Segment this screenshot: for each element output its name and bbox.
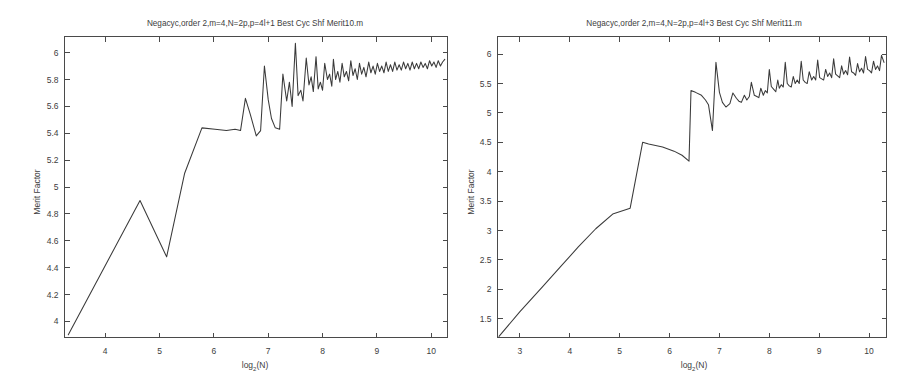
x-tick-label: 6: [212, 346, 217, 356]
chart-panel-right: Negacyc,order 2,m=4,N=2p,p=4l+3 Best Cyc…: [454, 0, 914, 386]
axis-ticks-left: 4567891044.24.44.64.855.25.45.65.86: [47, 37, 448, 356]
x-tick-label: 9: [817, 346, 822, 356]
x-tick-label: 10: [426, 346, 436, 356]
plot-title-right: Negacyc,order 2,m=4,N=2p,p=4l+3 Best Cyc…: [586, 19, 802, 28]
plot-svg-right: Negacyc,order 2,m=4,N=2p,p=4l+3 Best Cyc…: [454, 0, 914, 386]
x-tick-label: 7: [266, 346, 271, 356]
y-axis-label-left: Merit Factor: [32, 169, 42, 215]
y-tick-label: 4: [487, 167, 492, 177]
y-tick-label: 4.4: [47, 263, 59, 273]
y-tick-label: 3: [487, 226, 492, 236]
x-tick-label: 5: [157, 346, 162, 356]
axis-ticks-right: 3456789101.522.533.544.555.56: [480, 37, 887, 356]
x-tick-label: 8: [320, 346, 325, 356]
y-tick-label: 5.4: [47, 128, 59, 138]
y-tick-label: 1.5: [480, 314, 492, 324]
y-tick-label: 3.5: [480, 196, 492, 206]
y-tick-label: 6: [487, 49, 492, 59]
x-tick-label: 6: [667, 346, 672, 356]
y-tick-label: 5.5: [480, 79, 492, 89]
plot-frame-left: [65, 37, 448, 338]
chart-panel-left: Negacyc,order 2,m=4,N=2p,p=4l+1 Best Cyc…: [0, 0, 460, 386]
matlab-figure-window: Negacyc,order 2,m=4,N=2p,p=4l+1 Best Cyc…: [0, 0, 914, 386]
y-tick-label: 4: [54, 316, 59, 326]
plot-svg-left: Negacyc,order 2,m=4,N=2p,p=4l+1 Best Cyc…: [0, 0, 460, 386]
x-tick-label: 7: [717, 346, 722, 356]
y-tick-label: 4.5: [480, 137, 492, 147]
y-tick-label: 4.2: [47, 290, 59, 300]
y-tick-label: 4.8: [47, 209, 59, 219]
x-tick-label: 9: [375, 346, 380, 356]
data-series-right: [499, 55, 884, 336]
plot-frame-right: [498, 37, 887, 338]
x-tick-label: 4: [567, 346, 572, 356]
x-axis-label-right: log2(N): [681, 360, 708, 372]
y-tick-label: 4.6: [47, 236, 59, 246]
y-axis-label-right: Merit Factor: [466, 169, 476, 215]
y-tick-label: 5: [54, 182, 59, 192]
y-tick-label: 5: [487, 108, 492, 118]
x-tick-label: 8: [767, 346, 772, 356]
plot-title-left: Negacyc,order 2,m=4,N=2p,p=4l+1 Best Cyc…: [147, 19, 363, 28]
y-tick-label: 5.8: [47, 75, 59, 85]
x-tick-label: 3: [518, 346, 523, 356]
data-series-left: [68, 43, 444, 335]
y-tick-label: 5.6: [47, 101, 59, 111]
x-tick-label: 4: [103, 346, 108, 356]
x-tick-label: 5: [617, 346, 622, 356]
y-tick-label: 2: [487, 284, 492, 294]
y-tick-label: 2.5: [480, 255, 492, 265]
y-tick-label: 6: [54, 48, 59, 58]
x-tick-label: 10: [864, 346, 874, 356]
x-axis-label-left: log2(N): [242, 360, 269, 372]
y-tick-label: 5.2: [47, 155, 59, 165]
